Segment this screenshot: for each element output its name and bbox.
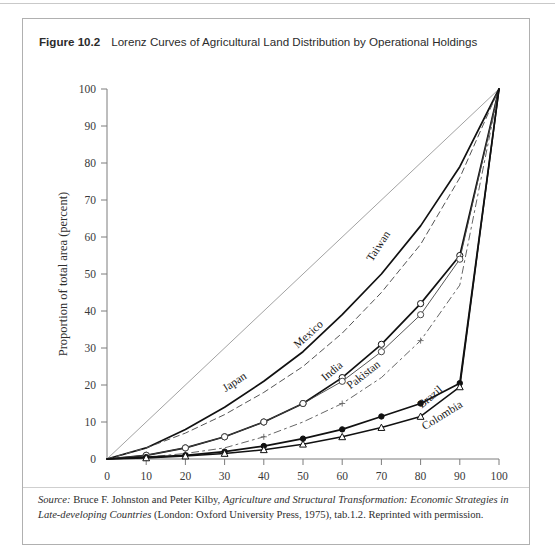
marker-india [457, 256, 463, 262]
y-tick-label: 70 [85, 194, 97, 206]
marker-india [418, 312, 424, 318]
marker-brazil [379, 414, 384, 419]
source-note: Source: Bruce F. Johnston and Peter Kilb… [38, 493, 516, 522]
series-label-japan: Japan [220, 369, 249, 394]
y-tick-label: 10 [85, 416, 97, 428]
x-tick-label: 20 [180, 470, 192, 482]
x-tick-label: 30 [219, 470, 231, 482]
x-tick-label: 90 [454, 470, 466, 482]
marker-india [378, 349, 384, 355]
source-divider [23, 487, 529, 488]
x-tick-label: 10 [140, 470, 152, 482]
y-tick-label: 40 [85, 305, 97, 317]
series-label-brazil: Brazil [415, 383, 444, 410]
marker-brazil [340, 427, 345, 432]
source-prefix: Source: [38, 494, 71, 505]
x-tick-label: 60 [336, 470, 348, 482]
x-tick-label: 100 [490, 470, 508, 482]
x-tick-label: 50 [297, 470, 309, 482]
x-tick-label: 40 [258, 470, 270, 482]
page-top-rule [0, 3, 555, 4]
x-tick-label: 80 [415, 470, 427, 482]
y-tick-label: 60 [85, 231, 97, 243]
y-tick-label: 30 [85, 342, 97, 354]
marker-india [300, 400, 306, 406]
y-tick-label: 50 [85, 268, 97, 280]
y-tick-label: 100 [79, 83, 97, 95]
series-label-mexico: Mexico [291, 318, 325, 351]
x-tick-label: 70 [376, 470, 388, 482]
y-tick-label: 90 [85, 120, 97, 132]
series-label-taiwan: Taiwan [364, 228, 393, 263]
marker-india [182, 445, 188, 451]
marker-india [222, 434, 228, 440]
lorenz-chart: 0102030405060708090100010203040506070809… [23, 19, 531, 489]
marker-india [261, 419, 267, 425]
y-axis-title: Proportion of total area (percent) [56, 192, 70, 357]
page-root: Figure 10.2Lorenz Curves of Agricultural… [0, 0, 555, 559]
y-tick-label: 80 [85, 157, 97, 169]
x-tick-label: 0 [104, 470, 110, 482]
figure-panel: Figure 10.2Lorenz Curves of Agricultural… [22, 18, 530, 545]
source-authors: Bruce F. Johnston and Peter Kilby, [71, 494, 223, 505]
marker-mexico [378, 341, 384, 347]
marker-mexico [418, 301, 424, 307]
y-tick-label: 0 [90, 453, 96, 465]
y-tick-label: 20 [85, 379, 97, 391]
source-publication: (London: Oxford University Press, 1975),… [151, 509, 483, 520]
chart-svg: 0102030405060708090100010203040506070809… [23, 19, 531, 489]
series-label-pakistan: Pakistan [344, 358, 382, 392]
